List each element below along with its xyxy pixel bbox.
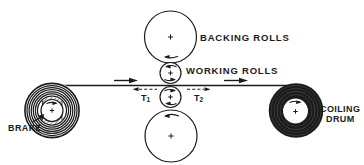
diagram-canvas: BACKING ROLLS WORKING ROLLS T1 T2 BRAKE … (0, 0, 364, 165)
coiling-drum-label: COILING DRUM (320, 104, 360, 124)
rolling-mill-diagram: BACKING ROLLS WORKING ROLLS T1 T2 BRAKE … (0, 0, 364, 165)
coiling-drum (269, 83, 324, 138)
brake-label: BRAKE (8, 123, 42, 133)
backing-rolls-label: BACKING ROLLS (200, 32, 290, 43)
t1-subscript: 1 (147, 96, 151, 103)
strip-direction-arrow-left (114, 78, 138, 84)
coiling-label-line1: COILING (320, 104, 360, 114)
strip-direction-arrow-right (224, 78, 248, 84)
tension-t2-label: T2 (194, 93, 204, 104)
coiling-label-line2: DRUM (326, 114, 355, 124)
tension-t1-label: T1 (141, 93, 151, 104)
working-rolls-label: WORKING ROLLS (186, 65, 278, 76)
back-tension-arrow (133, 87, 158, 91)
front-tension-arrow (187, 87, 211, 91)
t2-subscript: 2 (200, 96, 204, 103)
